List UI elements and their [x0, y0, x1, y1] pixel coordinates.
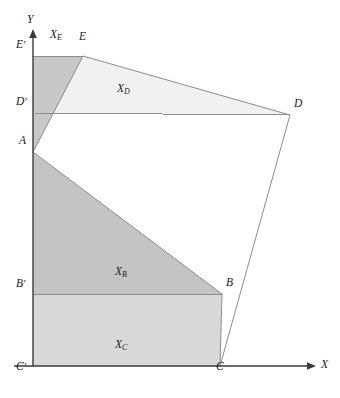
- point-label-e-prime: E’: [16, 39, 26, 51]
- c-prime-mark: ’: [24, 361, 27, 372]
- x-axis-arrowhead: [307, 362, 316, 370]
- y-axis-arrowhead: [29, 29, 37, 38]
- x-axis-label: X: [321, 359, 328, 371]
- region-label-xd-letter: X: [117, 82, 124, 94]
- b-prime-letter: B: [16, 277, 23, 289]
- point-label-d: D: [294, 98, 302, 110]
- region-label-x-sub-b: XB: [115, 266, 127, 279]
- point-label-d-prime: D’: [16, 96, 28, 108]
- point-label-e: E: [79, 31, 86, 43]
- point-label-a: A: [19, 135, 26, 147]
- region-x-sub-c: [33, 294, 222, 366]
- region-label-x-sub-d: XD: [117, 83, 130, 96]
- region-label-xb-letter: X: [115, 265, 122, 277]
- region-label-x-sub-c: XC: [115, 339, 127, 352]
- point-label-b-prime: B’: [16, 278, 26, 290]
- region-label-xd-subscript: D: [124, 87, 130, 96]
- region-label-xe-letter: X: [50, 28, 57, 40]
- region-label-x-sub-e: XE: [50, 29, 62, 42]
- point-label-c: C: [216, 361, 224, 373]
- point-label-b: B: [226, 277, 233, 289]
- region-label-xe-subscript: E: [57, 33, 62, 42]
- region-label-xb-subscript: B: [122, 270, 127, 279]
- geometry-figure: Y X A B C D E B’ C’ D’ E’ XE XD XB XC: [0, 0, 340, 398]
- b-prime-mark: ’: [23, 278, 26, 289]
- y-axis-label: Y: [27, 14, 33, 26]
- region-label-xc-subscript: C: [122, 343, 127, 352]
- e-prime-letter: E: [16, 38, 23, 50]
- d-prime-mark: ’: [24, 96, 27, 107]
- c-prime-letter: C: [16, 360, 24, 372]
- region-label-xc-letter: X: [115, 338, 122, 350]
- point-label-c-prime: C’: [16, 361, 27, 373]
- e-prime-mark: ’: [23, 39, 26, 50]
- diagram-canvas: [0, 0, 340, 398]
